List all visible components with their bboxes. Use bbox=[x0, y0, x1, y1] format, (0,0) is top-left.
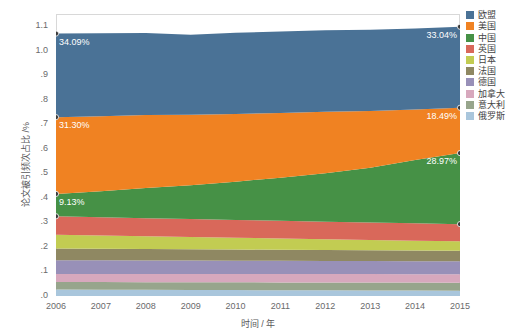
x-axis-tick-label: 2007 bbox=[81, 301, 121, 311]
plot-canvas: 34.09%33.04%31.30%18.49%9.13%28.97% bbox=[56, 14, 460, 296]
data-label: 33.04% bbox=[426, 30, 457, 40]
area-band-加拿大 bbox=[56, 274, 460, 283]
y-axis-tick-label: .7 bbox=[20, 119, 48, 128]
legend-item-label: 美国 bbox=[478, 21, 496, 31]
y-axis-tick-label: .9 bbox=[20, 70, 48, 79]
legend-item-label: 意大利 bbox=[478, 100, 505, 110]
legend-swatch-icon bbox=[466, 34, 474, 42]
legend-swatch-icon bbox=[466, 67, 474, 75]
legend-item-label: 中国 bbox=[478, 33, 496, 43]
legend-item-label: 法国 bbox=[478, 66, 496, 76]
data-point-marker bbox=[457, 24, 460, 29]
legend-item-label: 日本 bbox=[478, 55, 496, 65]
y-axis-tick-label: .2 bbox=[20, 242, 48, 251]
x-axis-tick-label: 2011 bbox=[260, 301, 300, 311]
legend-item[interactable]: 意大利 bbox=[466, 100, 526, 111]
legend-swatch-icon bbox=[466, 112, 474, 120]
data-point-marker bbox=[457, 150, 460, 155]
legend-item[interactable]: 法国 bbox=[466, 66, 526, 77]
data-point-marker bbox=[457, 222, 460, 227]
x-axis-tick-label: 2013 bbox=[350, 301, 390, 311]
area-band-欧盟 bbox=[56, 27, 460, 117]
x-axis-title: 时间 / 年 bbox=[56, 317, 460, 330]
legend-swatch-icon bbox=[466, 56, 474, 64]
data-label: 31.30% bbox=[59, 120, 90, 130]
data-point-marker bbox=[56, 31, 59, 36]
y-axis-tick-label: .8 bbox=[20, 95, 48, 104]
legend-swatch-icon bbox=[466, 90, 474, 98]
legend-item[interactable]: 俄罗斯 bbox=[466, 111, 526, 122]
legend-item-label: 欧盟 bbox=[478, 10, 496, 20]
legend-item[interactable]: 加拿大 bbox=[466, 88, 526, 99]
area-band-德国 bbox=[56, 260, 460, 274]
data-point-marker bbox=[56, 214, 59, 219]
data-label: 28.97% bbox=[426, 156, 457, 166]
y-axis-tick-label: .6 bbox=[20, 144, 48, 153]
y-axis-tick-label: .3 bbox=[20, 217, 48, 226]
x-axis-tick-label: 2008 bbox=[126, 301, 166, 311]
legend-swatch-icon bbox=[466, 101, 474, 109]
area-band-意大利 bbox=[56, 282, 460, 291]
y-axis-tick-label: .1 bbox=[20, 266, 48, 275]
x-axis-tick-label: 2009 bbox=[171, 301, 211, 311]
area-band-俄罗斯 bbox=[56, 290, 460, 296]
y-axis-tick-label: 1.0 bbox=[20, 46, 48, 55]
data-label: 9.13% bbox=[59, 197, 85, 207]
legend-item[interactable]: 中国 bbox=[466, 32, 526, 43]
y-axis-tick-label: .5 bbox=[20, 168, 48, 177]
data-label: 18.49% bbox=[426, 111, 457, 121]
data-label: 34.09% bbox=[59, 37, 90, 47]
legend-swatch-icon bbox=[466, 11, 474, 19]
legend-item[interactable]: 德国 bbox=[466, 77, 526, 88]
y-axis-tick-label: .4 bbox=[20, 193, 48, 202]
legend-item-label: 英国 bbox=[478, 44, 496, 54]
y-axis-tick-label: 1.1 bbox=[20, 21, 48, 30]
legend-item-label: 德国 bbox=[478, 77, 496, 87]
chart-legend: 欧盟美国中国英国日本法国德国加拿大意大利俄罗斯 bbox=[466, 10, 526, 122]
x-axis-tick-label: 2006 bbox=[36, 301, 76, 311]
data-point-marker bbox=[56, 115, 59, 120]
legend-swatch-icon bbox=[466, 78, 474, 86]
legend-item[interactable]: 欧盟 bbox=[466, 10, 526, 21]
legend-item[interactable]: 美国 bbox=[466, 21, 526, 32]
x-axis-tick-label: 2012 bbox=[305, 301, 345, 311]
stacked-area-chart: 论文被引频次占比 /% .0.1.2.3.4.5.6.7.8.91.01.1 3… bbox=[0, 0, 527, 334]
data-point-marker bbox=[457, 105, 460, 110]
legend-item-label: 加拿大 bbox=[478, 89, 505, 99]
data-point-marker bbox=[56, 191, 59, 196]
legend-item-label: 俄罗斯 bbox=[478, 111, 505, 121]
x-axis-tick-label: 2015 bbox=[440, 301, 480, 311]
y-axis-ticks: .0.1.2.3.4.5.6.7.8.91.01.1 bbox=[18, 0, 48, 334]
y-axis-tick-label: .0 bbox=[20, 291, 48, 300]
x-axis-tick-label: 2010 bbox=[216, 301, 256, 311]
legend-swatch-icon bbox=[466, 45, 474, 53]
legend-item[interactable]: 日本 bbox=[466, 55, 526, 66]
legend-item[interactable]: 英国 bbox=[466, 44, 526, 55]
x-axis-tick-label: 2014 bbox=[395, 301, 435, 311]
legend-swatch-icon bbox=[466, 22, 474, 30]
